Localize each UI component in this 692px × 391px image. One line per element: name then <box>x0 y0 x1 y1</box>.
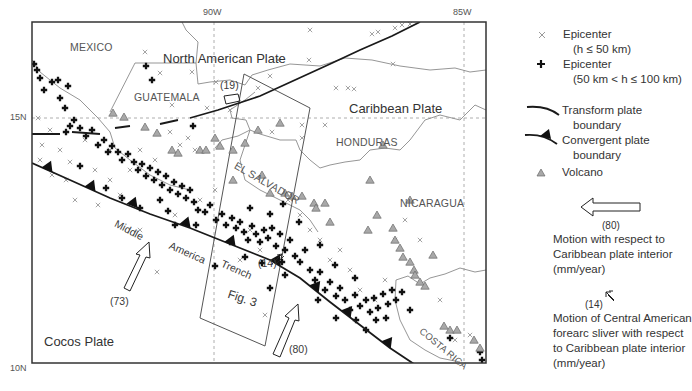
label-north-american-plate: North American Plate <box>163 52 286 65</box>
lon-tick-85w: 85W <box>453 8 472 17</box>
label-cocos-plate: Cocos Plate <box>44 335 114 348</box>
sliver-arrow-icon <box>604 290 616 302</box>
legend-motion-2: Caribbean plate interior <box>553 247 673 262</box>
lat-tick-15n: 15N <box>10 113 27 122</box>
motion-arrow-73 <box>124 242 150 291</box>
country-borders <box>32 22 486 362</box>
lon-tick-90w: 90W <box>203 8 222 17</box>
legend-sliver-1: Motion of Central American <box>553 311 692 326</box>
legend-convergent-2: boundary <box>573 148 621 163</box>
label-caribbean-plate: Caribbean Plate <box>349 102 442 115</box>
transform-boundary-icon <box>526 103 560 117</box>
legend-epicenter-deep-1: Epicenter <box>563 57 612 72</box>
motion-arrow-icon <box>579 196 643 218</box>
epicenter-shallow-icon <box>537 30 547 40</box>
label-mexico: MEXICO <box>70 42 113 53</box>
transform-boundary <box>32 22 420 134</box>
legend-epicenter-shallow-2: (h ≤ 50 km) <box>573 42 631 57</box>
map-legend: Epicenter (h ≤ 50 km) Epicenter (50 km <… <box>520 0 684 391</box>
label-guatemala: GUATEMALA <box>134 92 200 103</box>
label-rate-14: (14) <box>258 258 277 269</box>
label-rate-80: (80) <box>289 344 308 355</box>
label-honduras: HONDURAS <box>336 137 398 148</box>
label-rate-73: (73) <box>110 296 129 307</box>
legend-sliver-4: (mm/year) <box>553 356 605 371</box>
legend-motion-3: (mm/year) <box>553 262 605 277</box>
legend-epicenter-deep-2: (50 km < h ≤ 100 km) <box>573 72 682 87</box>
legend-sliver-3: to Caribbean plate interior <box>553 341 685 356</box>
convergent-boundary-icon <box>524 128 558 146</box>
legend-volcano: Volcano <box>562 165 603 180</box>
legend-motion-1: Motion with respect to <box>553 232 665 247</box>
epicenter-deep-icon <box>536 59 546 69</box>
label-nicaragua: NICARAGUA <box>400 198 464 209</box>
block-19 <box>224 94 240 104</box>
legend-transform-1: Transform plate <box>562 103 642 118</box>
legend-motion-rate: (80) <box>602 218 620 233</box>
trench-teeth <box>42 158 397 348</box>
legend-convergent-1: Convergent plate <box>562 133 650 148</box>
legend-sliver-2: forearc sliver with respect <box>553 326 683 341</box>
label-rate-19: (19) <box>220 80 239 91</box>
lat-tick-10n: 10N <box>10 364 27 373</box>
legend-sliver-rate: (14) <box>585 297 603 312</box>
legend-transform-2: boundary <box>573 118 621 133</box>
legend-epicenter-shallow-1: Epicenter <box>563 27 612 42</box>
volcano-icon <box>536 168 546 178</box>
